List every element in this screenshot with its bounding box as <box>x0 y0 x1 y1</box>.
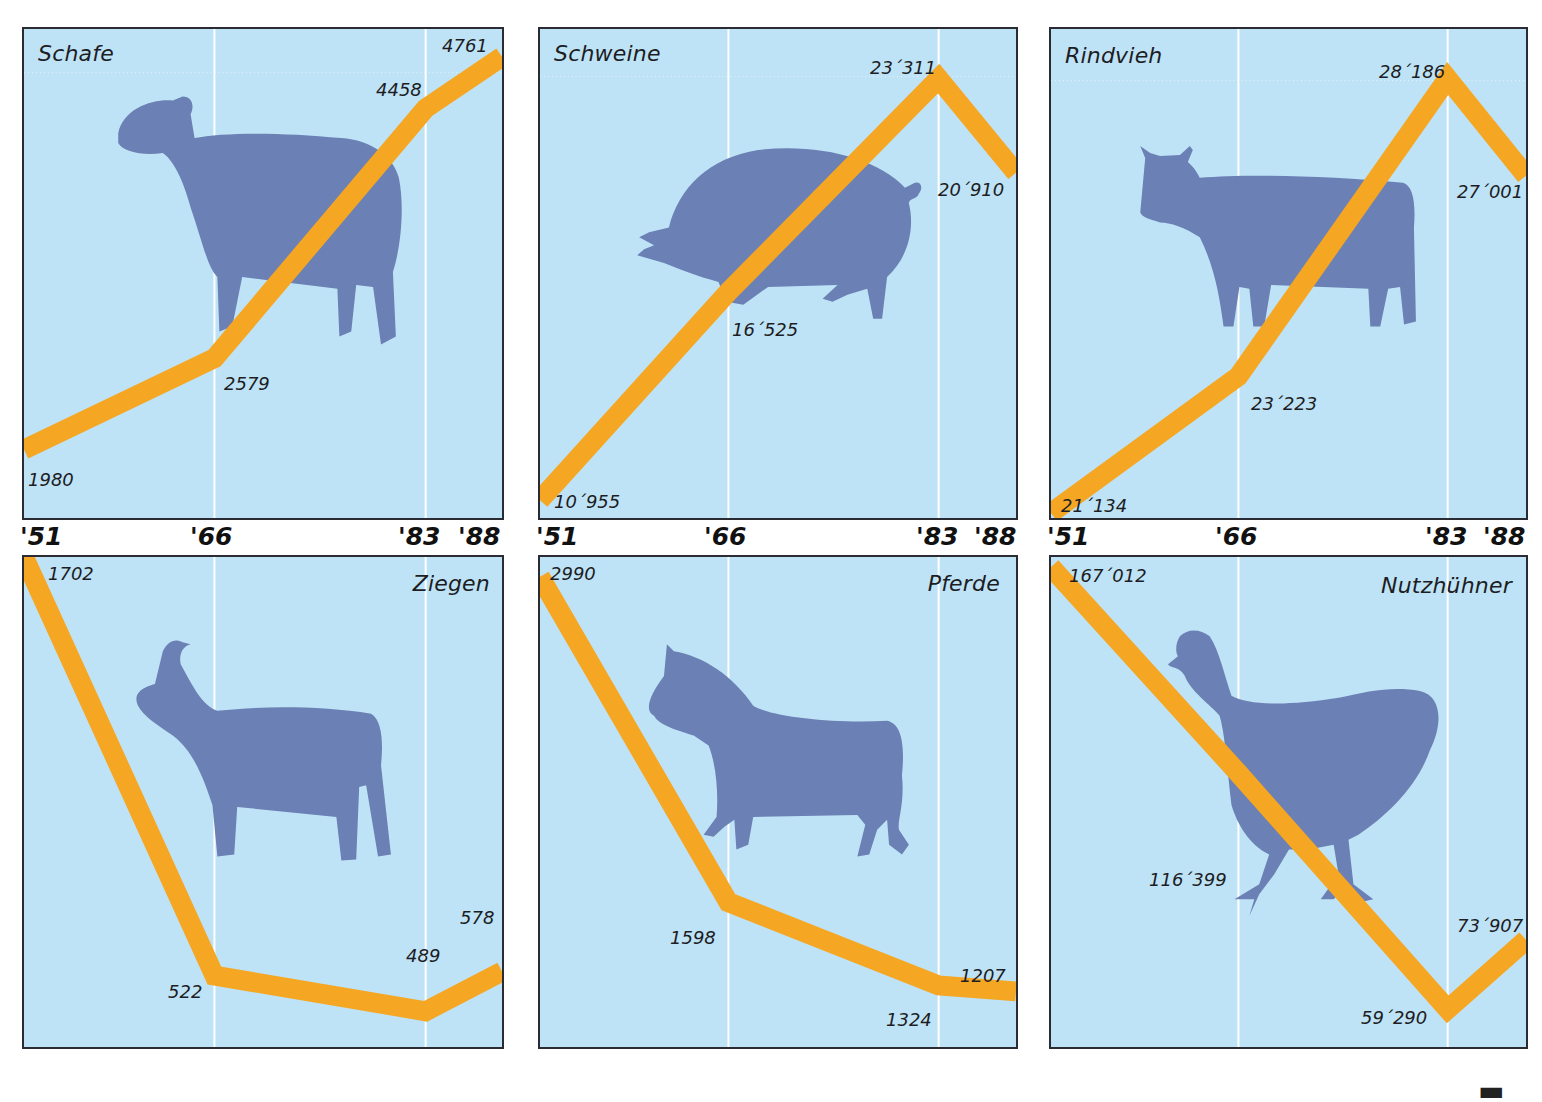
value-label-1951: 2990 <box>550 563 596 584</box>
tick-1966: '66 <box>190 522 232 551</box>
value-label-1988: 4761 <box>442 35 488 56</box>
value-label-1966: 1598 <box>670 927 716 948</box>
chart-plot <box>1051 557 1526 1047</box>
chart-plot <box>1051 29 1526 518</box>
value-label-1983: 1324 <box>886 1009 932 1030</box>
tick-1951: '51 <box>20 522 62 551</box>
value-label-1966: 2579 <box>224 373 270 394</box>
tick-1988: '88 <box>458 522 500 551</box>
tick-1966: '66 <box>704 522 746 551</box>
panel-title: Nutzhühner <box>1381 573 1512 598</box>
tick-1951: '51 <box>536 522 578 551</box>
value-label-1988: 20´910 <box>938 179 1004 200</box>
panel-title: Ziegen <box>413 571 490 596</box>
value-label-1988: 1207 <box>960 965 1006 986</box>
chart-panel-rindvieh: Rindvieh 21´134 23´223 28´186 27´001 <box>1049 27 1528 520</box>
tick-1966: '66 <box>1215 522 1257 551</box>
panel-title: Schafe <box>38 41 114 66</box>
chart-panel-schafe: Schafe 1980 2579 4458 4761 <box>22 27 504 520</box>
value-label-1951: 1702 <box>48 563 94 584</box>
x-axis-col3: '51 '66 '83 '88 <box>1047 522 1531 554</box>
chart-panel-schweine: Schweine 10´955 16´525 23´311 20´910 <box>538 27 1018 520</box>
value-label-1983: 489 <box>406 945 440 966</box>
value-label-1988: 73´907 <box>1457 915 1523 936</box>
tick-1983: '83 <box>1425 522 1467 551</box>
chart-panel-nutzhuehner: Nutzhühner 167´012 116´399 59´290 73´907 <box>1049 555 1528 1049</box>
value-label-1983: 59´290 <box>1361 1007 1427 1028</box>
value-label-1951: 21´134 <box>1061 495 1127 516</box>
value-label-1966: 522 <box>168 981 202 1002</box>
tick-1988: '88 <box>1483 522 1525 551</box>
value-label-1966: 116´399 <box>1149 869 1227 890</box>
chart-panel-ziegen: Ziegen 1702 522 489 578 <box>22 555 504 1049</box>
chart-plot <box>24 29 502 518</box>
value-label-1966: 16´525 <box>732 319 798 340</box>
x-axis-col1: '51 '66 '83 '88 <box>20 522 504 554</box>
tick-1988: '88 <box>974 522 1016 551</box>
value-label-1966: 23´223 <box>1251 393 1317 414</box>
value-label-1951: 1980 <box>28 469 74 490</box>
chart-plot <box>24 557 502 1047</box>
chart-plot <box>540 29 1016 518</box>
page-number-fragment: ▬ <box>1478 1074 1504 1102</box>
value-label-1951: 167´012 <box>1069 565 1147 586</box>
tick-1951: '51 <box>1047 522 1089 551</box>
value-label-1983: 4458 <box>376 79 422 100</box>
panel-title: Rindvieh <box>1065 43 1163 68</box>
value-label-1983: 23´311 <box>870 57 936 78</box>
tick-1983: '83 <box>398 522 440 551</box>
panel-title: Pferde <box>928 571 1000 596</box>
value-label-1983: 28´186 <box>1379 61 1445 82</box>
tick-1983: '83 <box>916 522 958 551</box>
chart-plot <box>540 557 1016 1047</box>
x-axis-col2: '51 '66 '83 '88 <box>536 522 1020 554</box>
goat-icon <box>136 641 391 861</box>
chart-panel-pferde: Pferde 2990 1598 1324 1207 <box>538 555 1018 1049</box>
panel-title: Schweine <box>554 41 661 66</box>
value-label-1951: 10´955 <box>554 491 620 512</box>
value-label-1988: 27´001 <box>1457 181 1523 202</box>
value-label-1988: 578 <box>460 907 494 928</box>
